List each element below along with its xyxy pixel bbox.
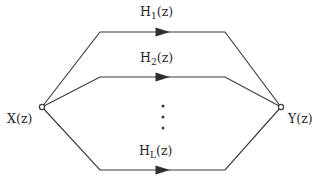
branch-path-h1 xyxy=(42,32,281,107)
branch-label-h2: H2(z) xyxy=(140,52,173,67)
input-node-label-arg: (z) xyxy=(16,111,32,126)
arrowhead-h2 xyxy=(156,73,171,82)
branch-label-hl: HL(z) xyxy=(139,145,172,160)
branch-label-hl-arg: (z) xyxy=(156,143,172,158)
diagram-canvas xyxy=(0,0,325,188)
input-node-label-base: X xyxy=(7,111,16,126)
ellipsis-dot xyxy=(162,127,165,130)
arrowhead-hl xyxy=(156,166,171,175)
signal-flow-diagram: H1(z) H2(z) HL(z) X(z) Y(z) xyxy=(0,0,325,188)
branch-path-hl xyxy=(42,107,281,170)
branch-label-h2-arg: (z) xyxy=(157,50,173,65)
branch-label-h1: H1(z) xyxy=(140,6,173,21)
output-node-label: Y(z) xyxy=(288,113,313,126)
output-node-circle xyxy=(278,104,283,109)
input-node-circle xyxy=(39,104,44,109)
branch-label-h1-arg: (z) xyxy=(157,4,173,19)
output-node-label-arg: (z) xyxy=(296,111,312,126)
branch-label-hl-base: H xyxy=(139,143,150,158)
input-node-label: X(z) xyxy=(7,113,32,126)
ellipsis-dot xyxy=(162,116,165,119)
branch-label-h1-base: H xyxy=(140,4,151,19)
ellipsis-dot xyxy=(162,105,165,108)
branch-label-h2-base: H xyxy=(140,50,151,65)
arrowhead-h1 xyxy=(156,28,171,37)
branch-path-h2 xyxy=(42,77,281,107)
